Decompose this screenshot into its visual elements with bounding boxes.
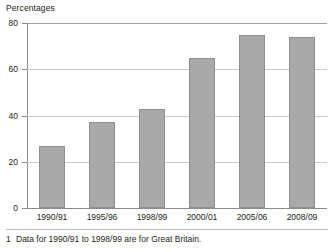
y-axis-tick bbox=[22, 162, 27, 163]
gridline bbox=[27, 23, 327, 24]
gridline bbox=[27, 69, 327, 70]
bar bbox=[289, 37, 315, 208]
y-axis-label: 80 bbox=[9, 19, 18, 28]
bar-chart-figure: Percentages 1Data for 1990/91 to 1998/99… bbox=[0, 0, 334, 252]
y-axis-tick bbox=[22, 23, 27, 24]
footnote-marker: 1 bbox=[6, 234, 16, 245]
y-axis-label: 0 bbox=[13, 204, 18, 213]
bar bbox=[39, 146, 65, 208]
y-axis-tick bbox=[22, 69, 27, 70]
x-axis-label: 1990/91 bbox=[27, 212, 77, 222]
x-axis-label: 2000/01 bbox=[177, 212, 227, 222]
x-axis-label: 2005/06 bbox=[227, 212, 277, 222]
y-axis-tick bbox=[22, 208, 27, 209]
x-axis-label: 1998/99 bbox=[127, 212, 177, 222]
x-axis-label: 2008/09 bbox=[277, 212, 327, 222]
gridline bbox=[27, 162, 327, 163]
y-axis-label: 60 bbox=[9, 65, 18, 74]
bar bbox=[89, 122, 115, 208]
x-axis-label: 1995/96 bbox=[77, 212, 127, 222]
gridline bbox=[27, 116, 327, 117]
y-axis-label: 20 bbox=[9, 158, 18, 167]
x-axis-line bbox=[27, 208, 327, 209]
footnote: 1Data for 1990/91 to 1998/99 are for Gre… bbox=[6, 234, 328, 245]
bar bbox=[239, 35, 265, 208]
footnote-divider bbox=[6, 229, 328, 230]
bar bbox=[139, 109, 165, 208]
y-axis-tick bbox=[22, 116, 27, 117]
bar bbox=[189, 58, 215, 208]
y-axis-label: 40 bbox=[9, 112, 18, 121]
plot-area bbox=[27, 23, 327, 208]
chart-title: Percentages bbox=[6, 3, 55, 13]
footnote-text: Data for 1990/91 to 1998/99 are for Grea… bbox=[16, 234, 201, 244]
